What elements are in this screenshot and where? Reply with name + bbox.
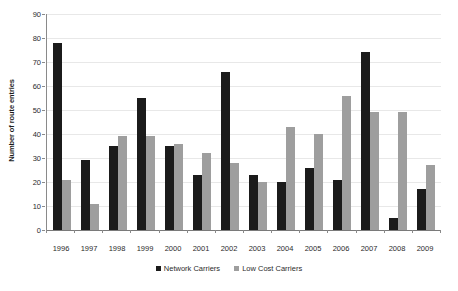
bar[interactable] [81, 160, 90, 230]
x-tick-label: 2003 [243, 244, 271, 258]
bar[interactable] [165, 146, 174, 230]
x-tick-label: 2007 [355, 244, 383, 258]
plot-area [46, 14, 441, 231]
bar[interactable] [146, 136, 155, 230]
legend-label: Network Carriers [164, 264, 220, 273]
x-tick-mark [46, 230, 47, 233]
x-tick-label: 2004 [271, 244, 299, 258]
bar[interactable] [109, 146, 118, 230]
y-tick-mark [42, 206, 45, 207]
bar[interactable] [398, 112, 407, 230]
bar-groups [47, 14, 441, 230]
y-axis-title: Number of route entries [2, 0, 20, 240]
bar[interactable] [193, 175, 202, 230]
x-tick-label: 2009 [411, 244, 439, 258]
bar-group [244, 14, 272, 230]
bar-group [356, 14, 384, 230]
x-tick-mark [102, 230, 103, 233]
legend-item[interactable]: Network Carriers [156, 264, 220, 273]
bar-group [328, 14, 356, 230]
y-tick-label: 10 [33, 202, 41, 211]
x-tick-label: 2002 [215, 244, 243, 258]
x-tick-mark [356, 230, 357, 233]
bar[interactable] [202, 153, 211, 230]
bar[interactable] [314, 134, 323, 230]
y-tick-mark [42, 14, 45, 15]
y-tick-label: 20 [33, 178, 41, 187]
bar[interactable] [389, 218, 398, 230]
y-axis-title-text: Number of route entries [7, 79, 16, 162]
y-tick-mark [42, 182, 45, 183]
bar[interactable] [370, 112, 379, 230]
bar[interactable] [90, 204, 99, 230]
x-tick-mark [299, 230, 300, 233]
bar[interactable] [361, 52, 370, 230]
bar-group [188, 14, 216, 230]
bar[interactable] [417, 189, 426, 230]
y-tick-mark [42, 86, 45, 87]
x-axis-ticks [46, 230, 440, 234]
chart-legend: Network CarriersLow Cost Carriers [0, 264, 458, 273]
bar[interactable] [258, 182, 267, 230]
bar-group [412, 14, 440, 230]
bar[interactable] [286, 127, 295, 230]
x-tick-label: 1998 [103, 244, 131, 258]
x-tick-mark [215, 230, 216, 233]
bar[interactable] [62, 180, 71, 230]
y-tick-label: 80 [33, 34, 41, 43]
bar[interactable] [333, 180, 342, 230]
bar[interactable] [174, 144, 183, 230]
x-tick-label: 2008 [383, 244, 411, 258]
bar[interactable] [118, 136, 127, 230]
y-tick-label: 60 [33, 82, 41, 91]
x-tick-mark [74, 230, 75, 233]
bar[interactable] [230, 163, 239, 230]
y-tick-label: 0 [37, 226, 41, 235]
x-tick-label: 2005 [299, 244, 327, 258]
bar-group [300, 14, 328, 230]
x-tick-label: 2006 [327, 244, 355, 258]
bar-group [160, 14, 188, 230]
x-tick-mark [159, 230, 160, 233]
y-tick-label: 40 [33, 130, 41, 139]
x-tick-label: 1997 [75, 244, 103, 258]
bar[interactable] [426, 165, 435, 230]
x-tick-mark [271, 230, 272, 233]
bar[interactable] [221, 72, 230, 230]
y-tick-mark [42, 158, 45, 159]
x-tick-mark [130, 230, 131, 233]
x-tick-mark [243, 230, 244, 233]
x-axis-labels: 1996199719981999200020012002200320042005… [46, 244, 440, 258]
y-tick-mark [42, 38, 45, 39]
y-tick-label: 30 [33, 154, 41, 163]
bar-group [272, 14, 300, 230]
bar[interactable] [249, 175, 258, 230]
bar[interactable] [277, 182, 286, 230]
bar-group [104, 14, 132, 230]
plot-area-wrapper: 0102030405060708090 [22, 14, 442, 242]
network-swatch-icon [156, 266, 161, 271]
bar[interactable] [137, 98, 146, 230]
bar-group [132, 14, 160, 230]
x-tick-mark [412, 230, 413, 233]
bar[interactable] [305, 168, 314, 230]
bar[interactable] [53, 43, 62, 230]
x-tick-label: 2000 [159, 244, 187, 258]
x-tick-mark [327, 230, 328, 233]
bar-group [216, 14, 244, 230]
x-tick-mark [384, 230, 385, 233]
x-tick-label: 1996 [47, 244, 75, 258]
y-tick-mark [42, 134, 45, 135]
y-tick-mark [42, 230, 45, 231]
bar-group [48, 14, 76, 230]
y-tick-mark [42, 110, 45, 111]
lowcost-swatch-icon [234, 266, 239, 271]
x-tick-mark [187, 230, 188, 233]
bar[interactable] [342, 96, 351, 230]
y-axis: 0102030405060708090 [22, 14, 44, 230]
y-tick-label: 70 [33, 58, 41, 67]
legend-item[interactable]: Low Cost Carriers [234, 264, 302, 273]
y-tick-label: 90 [33, 10, 41, 19]
y-tick-label: 50 [33, 106, 41, 115]
y-tick-mark [42, 62, 45, 63]
